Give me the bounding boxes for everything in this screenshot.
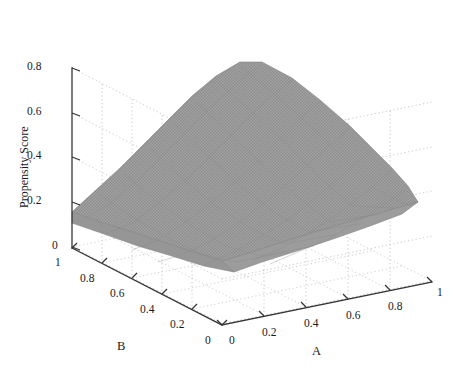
a-tick-label-0.6: 0.6 — [346, 310, 360, 322]
a-tick-label-0.2: 0.2 — [262, 327, 276, 339]
b-tick-label-0.4: 0.4 — [140, 304, 154, 316]
b-tick-label-0: 0 — [205, 335, 211, 347]
z-tick-label-0.6: 0.6 — [27, 106, 41, 118]
a-tick-label-0: 0 — [229, 335, 235, 347]
a-tick-label-0.4: 0.4 — [304, 318, 318, 330]
surface-plot-canvas — [0, 0, 454, 368]
b-tick-label-1: 1 — [55, 257, 61, 269]
a-tick-label-0.8: 0.8 — [388, 301, 402, 313]
z-tick-label-0.8: 0.8 — [27, 61, 41, 73]
b-axis-label: B — [117, 340, 125, 353]
b-tick-label-0.8: 0.8 — [80, 273, 94, 285]
a-tick-label-1: 1 — [437, 287, 443, 299]
a-axis-label: A — [312, 345, 321, 358]
b-tick-label-0.6: 0.6 — [110, 288, 124, 300]
z-axis-label: Propensity Score — [18, 126, 30, 208]
surface-mesh — [72, 62, 418, 272]
z-tick-label-0: 0 — [52, 240, 58, 252]
propensity-score-surface-figure: 0.8 0.6 0.4 0.2 0 Propensity Score 1 0.8… — [0, 0, 454, 368]
b-tick-label-0.2: 0.2 — [170, 319, 184, 331]
